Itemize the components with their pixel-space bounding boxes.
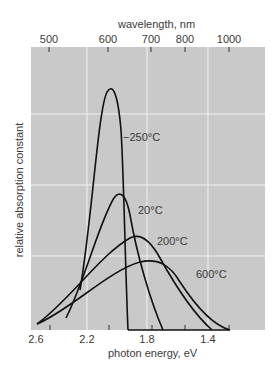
top-tick-700: 700 xyxy=(142,33,160,45)
y-axis-title: relative absorption constant xyxy=(13,123,25,258)
top-tick-1000: 1000 xyxy=(217,33,241,45)
series-label-200: 200°C xyxy=(157,235,188,247)
series-label-minus-250: −250°C xyxy=(123,131,160,143)
top-tick-600: 600 xyxy=(99,33,117,45)
top-tick-500: 500 xyxy=(40,33,58,45)
chart-canvas xyxy=(0,0,278,374)
top-tick-800: 800 xyxy=(176,33,194,45)
series-label-600: 600°C xyxy=(196,268,227,280)
bottom-axis-title: photon energy, eV xyxy=(108,347,197,359)
bottom-tick-2.6: 2.6 xyxy=(28,333,43,345)
top-axis-title: wavelength, nm xyxy=(118,18,195,30)
bottom-tick-1.8: 1.8 xyxy=(139,333,154,345)
bottom-tick-2.2: 2.2 xyxy=(79,333,94,345)
series-label-20: 20°C xyxy=(138,204,163,216)
bottom-tick-1.4: 1.4 xyxy=(200,333,215,345)
